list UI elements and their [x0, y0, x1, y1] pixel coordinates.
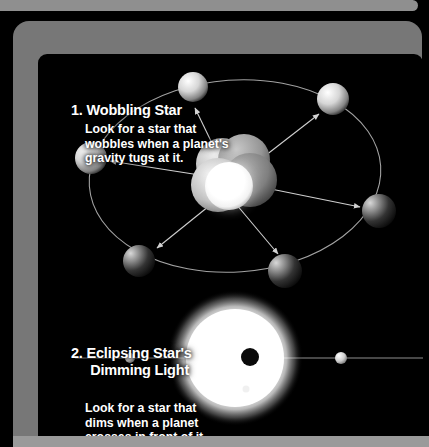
- bottom-decorative-rail: [13, 436, 429, 447]
- arrow-to-right: [256, 186, 360, 207]
- section-1-heading: 1. Wobbling Star: [71, 102, 182, 119]
- panel-inner: 1. Wobbling Star Look for a star that wo…: [38, 54, 423, 447]
- arrow-to-bottom-left: [157, 202, 214, 248]
- section-2-heading: 2. Eclipsing Star's Dimming Light: [71, 345, 192, 379]
- transiting-planet-silhouette: [241, 348, 259, 366]
- section-1-body: Look for a star that wobbles when a plan…: [85, 122, 229, 166]
- planet-bottom-right: [268, 254, 302, 288]
- panel-frame: 1. Wobbling Star Look for a star that wo…: [13, 21, 422, 437]
- top-decorative-rail: [0, 0, 418, 11]
- planet-right: [362, 194, 396, 228]
- planet-upper-right: [317, 83, 349, 115]
- arrow-to-upper-right: [252, 114, 319, 166]
- eclipsing-star-disk: [186, 309, 284, 407]
- star-core-glow: [209, 166, 249, 206]
- planet-bottom-left: [123, 245, 155, 277]
- star-lobe-4: [191, 158, 245, 212]
- planet-top: [178, 72, 208, 102]
- star-lobe-3: [223, 153, 277, 207]
- arrow-to-bottom-right: [236, 204, 278, 254]
- planet-orbit-right: [335, 352, 347, 364]
- transit-shadow-spot: [243, 386, 250, 393]
- poster-page: 1. Wobbling Star Look for a star that wo…: [0, 0, 429, 447]
- star-bright-core: [205, 162, 253, 210]
